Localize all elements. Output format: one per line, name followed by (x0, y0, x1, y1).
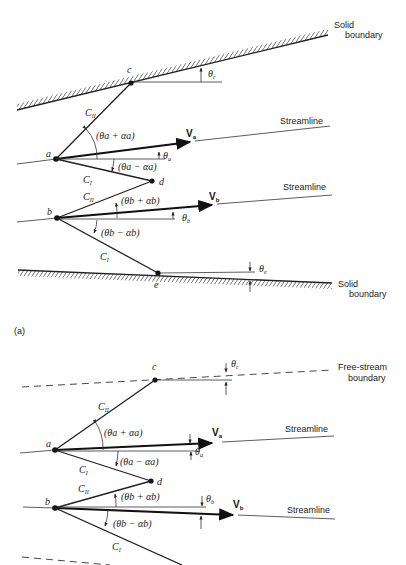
characteristic-c1-b-b (55, 508, 182, 565)
theta-e-label: θe (259, 263, 267, 275)
bottom-boundary-label-2: boundary (349, 289, 387, 299)
free-stream-boundary (22, 370, 332, 387)
angle-b-plus-label: (θb + αb) (121, 195, 160, 207)
panel-b: Free-stream boundary θc c CII Streamline… (20, 358, 387, 565)
point-c-label: c (127, 64, 132, 75)
velocity-vector-a-b (55, 443, 212, 450)
top-boundary-label-1: Solid (334, 20, 354, 30)
c1-label-lower: CI (100, 251, 110, 263)
angle-a-plus-label-b: (θa + αa) (104, 427, 143, 439)
theta-c-label: θc (208, 68, 216, 80)
panel-a-label: (a) (14, 326, 25, 336)
c2-label-upper-b: CII (98, 401, 110, 413)
c1-label-lower-b: CI (112, 541, 122, 553)
streamline-b-label: Streamline (283, 182, 326, 192)
va-label-b: Va (212, 427, 223, 439)
theta-b-label: θb (182, 212, 190, 224)
point-d-label-b: d (157, 476, 163, 487)
bottom-boundary-label-1: Solid (338, 279, 358, 289)
velocity-vector-b (57, 205, 212, 218)
panel-a: Solid boundary θc c CII Streamline Va (θ… (14, 20, 387, 336)
point-e (155, 270, 160, 275)
c2-label-lower: CII (83, 191, 95, 203)
c1-label-upper-b: CI (79, 464, 89, 476)
point-a-label-b: a (46, 438, 51, 449)
top-solid-boundary (17, 29, 328, 110)
c1-label-upper: CI (83, 174, 93, 186)
va-label: Va (186, 128, 197, 140)
velocity-vector-b-b (55, 508, 233, 515)
theta-b-label-b: θb (206, 493, 214, 505)
streamline-b-label-b: Streamline (287, 505, 330, 515)
angle-b-minus-label-b: (θb − αb) (113, 518, 152, 530)
angle-b-plus-label-b: (θb + αb) (121, 491, 160, 503)
vb-label: Vb (209, 191, 220, 203)
lower-free-stream-boundary (22, 557, 110, 565)
angle-a-minus-label-b: (θa − αa) (120, 456, 159, 468)
point-d-label: d (159, 176, 165, 187)
characteristics-diagram: Solid boundary θc c CII Streamline Va (θ… (0, 0, 406, 565)
point-c-label-b: c (152, 361, 157, 372)
free-stream-label-2: boundary (348, 373, 386, 383)
streamline-a-label: Streamline (280, 116, 323, 126)
vb-label-b: Vb (233, 499, 244, 511)
theta-c-label-b: θc (231, 358, 239, 370)
angle-a-minus-label: (θa − αa) (118, 161, 157, 173)
streamline-a-label-b: Streamline (285, 424, 328, 434)
characteristic-c2-ac-b (55, 380, 155, 450)
angle-b-minus-label: (θb − αb) (101, 227, 140, 239)
theta-a-label: θa (163, 150, 171, 162)
point-e-label: e (154, 279, 159, 290)
point-b-label: b (47, 206, 52, 217)
free-stream-label-1: Free-stream (338, 362, 387, 372)
c2-label-upper: CII (85, 107, 97, 119)
angle-a-plus-label: (θa + αa) (96, 130, 135, 142)
point-b-label-b: b (45, 496, 50, 507)
c2-label-lower-b: CII (78, 483, 90, 495)
top-boundary-label-2: boundary (345, 30, 383, 40)
theta-a-label-b: θa (195, 446, 203, 458)
point-a-label: a (46, 148, 51, 159)
